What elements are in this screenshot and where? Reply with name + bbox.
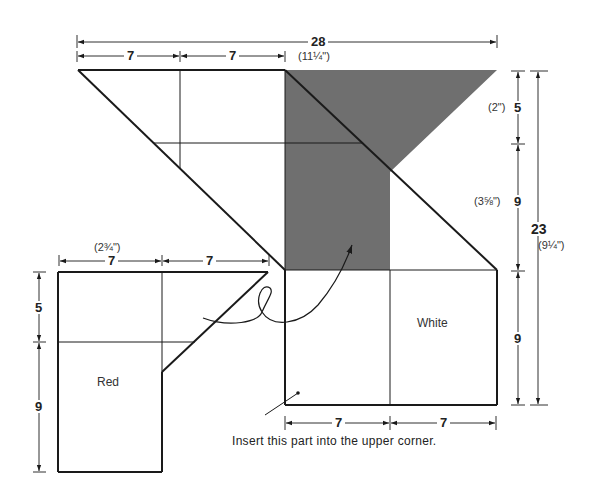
- dim-top-left: 7: [124, 49, 137, 62]
- dim-white-bottom-right: 7: [437, 416, 450, 429]
- dim-right-middle-inches: (3⅝"): [474, 196, 501, 207]
- insert-instruction-note: Insert this part into the upper corner.: [232, 435, 436, 447]
- dim-top-total: 28: [308, 35, 328, 48]
- dim-right-total-inches: (9¼"): [538, 240, 565, 251]
- dim-red-top-left: 7: [105, 254, 118, 267]
- pattern-diagram: [0, 0, 603, 499]
- note-leader: [265, 391, 300, 415]
- part-label-white: White: [417, 317, 448, 329]
- dim-red-top-inches: (2¾"): [94, 242, 121, 253]
- dim-white-bottom-left: 7: [332, 416, 345, 429]
- dim-right-lower: 9: [511, 332, 524, 345]
- dim-right-upper: 5: [511, 101, 524, 114]
- dim-top-total-inches: (11¼"): [298, 51, 330, 62]
- dim-right-upper-inches: (2"): [488, 102, 505, 113]
- part-label-red: Red: [97, 376, 119, 388]
- dim-red-top-right: 7: [203, 254, 216, 267]
- dim-red-left-lower: 9: [32, 400, 45, 413]
- dim-right-middle: 9: [511, 195, 524, 208]
- dim-right-total: 23: [528, 222, 550, 236]
- dim-red-left-upper: 5: [32, 301, 45, 314]
- dim-top-right: 7: [226, 49, 239, 62]
- white-piece: [285, 270, 497, 405]
